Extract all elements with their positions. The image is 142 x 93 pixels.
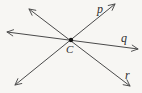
label-line-r: r xyxy=(125,68,130,82)
label-line-p: p xyxy=(96,2,103,16)
intersecting-lines-svg: p q r C xyxy=(0,0,142,93)
geometry-figure: p q r C xyxy=(0,0,142,93)
label-point-c: C xyxy=(66,43,74,55)
point-c-dot xyxy=(69,38,73,42)
label-line-q: q xyxy=(121,31,127,45)
line-r xyxy=(29,9,130,86)
